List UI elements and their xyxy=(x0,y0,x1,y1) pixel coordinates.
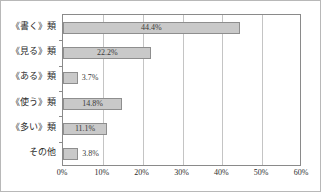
bar-chart-figure: 44.4%22.2%3.7%14.8%11.1%3.8% 《書く》類《見る》類《… xyxy=(0,0,321,192)
bar[interactable]: 14.8% xyxy=(63,98,122,110)
bar[interactable]: 44.4% xyxy=(63,22,240,34)
plot-area: 44.4%22.2%3.7%14.8%11.1%3.8% xyxy=(62,14,301,166)
bar-row: 3.7% xyxy=(63,66,300,91)
y-axis-tick xyxy=(59,116,63,117)
x-axis-tick-labels: 0%10%20%30%40%50%60% xyxy=(62,169,301,183)
bar[interactable]: 11.1% xyxy=(63,123,107,135)
bar-value-label: 3.7% xyxy=(82,74,99,82)
x-axis-tick-label: 20% xyxy=(134,169,149,177)
x-axis-tick-label: 0% xyxy=(57,169,68,177)
y-axis-category-label: 《見る》類 xyxy=(0,47,56,56)
bar[interactable]: 22.2% xyxy=(63,47,151,59)
y-axis-tick xyxy=(59,66,63,67)
bar-value-label: 14.8% xyxy=(82,100,103,108)
bar-row: 14.8% xyxy=(63,91,300,116)
y-axis-category-label: 《使う》類 xyxy=(0,98,56,107)
bar-value-label: 3.8% xyxy=(82,150,99,158)
y-axis-category-label: 《多い》類 xyxy=(0,123,56,132)
x-axis-tick-label: 40% xyxy=(214,169,229,177)
y-axis-tick xyxy=(59,40,63,41)
bar-value-label: 44.4% xyxy=(141,24,162,32)
y-axis-tick xyxy=(59,142,63,143)
x-axis-tick-label: 60% xyxy=(294,169,309,177)
x-axis-tick-label: 30% xyxy=(174,169,189,177)
bar[interactable] xyxy=(63,72,78,84)
x-axis-tick-label: 10% xyxy=(94,169,109,177)
bar-value-label: 11.1% xyxy=(75,125,95,133)
bar-row: 3.8% xyxy=(63,142,300,167)
y-axis-category-label: 《書く》類 xyxy=(0,22,56,31)
x-axis-tick-label: 50% xyxy=(254,169,269,177)
bar[interactable] xyxy=(63,148,78,160)
bar-value-label: 22.2% xyxy=(97,49,118,57)
y-axis-tick xyxy=(59,91,63,92)
y-axis-category-label: 《ある》類 xyxy=(0,72,56,81)
bar-row: 44.4% xyxy=(63,15,300,40)
bar-row: 11.1% xyxy=(63,116,300,141)
y-axis-category-label: その他 xyxy=(0,148,56,157)
bar-row: 22.2% xyxy=(63,40,300,65)
y-axis-labels: 《書く》類《見る》類《ある》類《使う》類《多い》類その他 xyxy=(1,14,59,166)
